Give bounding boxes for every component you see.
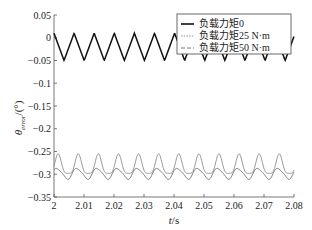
x-tick-label: 2.06 (225, 200, 243, 211)
y-tick-label: −0.3 (33, 169, 51, 180)
svg-text:θerror/(°): θerror/(°) (12, 100, 27, 135)
y-ticks: 0.050−0.05−0.1−0.15−0.2−0.25−0.3−0.35 (28, 10, 57, 203)
chart: 0.050−0.05−0.1−0.15−0.2−0.25−0.3−0.35 22… (0, 0, 312, 230)
x-tick-label: 2 (52, 200, 57, 211)
x-tick-label: 2.02 (105, 200, 123, 211)
legend-label: 负载力矩25 N·m (199, 29, 270, 41)
xlabel-unit: /s (172, 214, 179, 226)
legend-label: 负载力矩50 N·m (199, 41, 270, 53)
ylabel-subscript: error (19, 115, 27, 130)
x-ticks: 22.012.022.032.042.052.062.072.08 (52, 194, 303, 211)
series-group (54, 33, 294, 179)
y-axis-title: θerror/(°) (12, 100, 27, 135)
legend: 负载力矩0 负载力矩25 N·m 负载力矩50 N·m (177, 14, 291, 54)
series-line-2 (54, 168, 294, 179)
x-axis-title: t/s (169, 214, 179, 226)
ylabel-unit: /(°) (12, 100, 25, 115)
x-tick-label: 2.04 (165, 200, 183, 211)
y-tick-label: −0.25 (28, 146, 51, 157)
x-tick-label: 2.08 (285, 200, 303, 211)
x-tick-label: 2.07 (255, 200, 273, 211)
y-tick-label: 0.05 (34, 10, 52, 21)
x-tick-label: 2.05 (195, 200, 213, 211)
y-tick-label: −0.05 (28, 55, 51, 66)
svg-text:t/s: t/s (169, 214, 179, 226)
y-tick-label: −0.1 (33, 78, 51, 89)
y-tick-label: −0.35 (28, 192, 51, 203)
x-tick-label: 2.01 (75, 200, 93, 211)
legend-label: 负载力矩0 (199, 17, 244, 29)
y-tick-label: −0.15 (28, 101, 51, 112)
y-tick-label: 0 (46, 32, 51, 43)
y-tick-label: −0.2 (33, 123, 51, 134)
x-tick-label: 2.03 (135, 200, 153, 211)
